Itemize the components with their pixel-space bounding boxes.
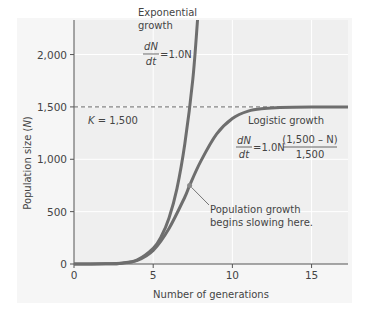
chart: 051015 05001,0001,5002,000 Number of gen… <box>0 0 365 322</box>
logistic-title: Logistic growth <box>248 115 324 126</box>
log-eq-rhs: =1.0N <box>253 142 285 153</box>
annotation-line2: begins slowing here. <box>210 217 313 228</box>
x-tick-label: 15 <box>305 269 318 281</box>
y-tick-label: 1,500 <box>37 101 67 113</box>
y-axis-label: Population size (N) <box>22 116 33 210</box>
annotation-line1: Population growth <box>210 204 301 215</box>
y-tick-label: 2,000 <box>37 49 67 61</box>
log-eq-ratio-denominator: 1,500 <box>296 149 325 160</box>
log-eq-denominator: dt <box>239 149 250 160</box>
x-axis-label: Number of generations <box>153 289 269 300</box>
log-eq-numerator: dN <box>237 135 251 146</box>
x-tick-label: 0 <box>71 269 78 281</box>
y-tick-label: 1,000 <box>37 153 67 165</box>
exp-eq-numerator: dN <box>144 41 158 52</box>
carrying-capacity-label: K = 1,500 <box>88 115 138 126</box>
exponential-title-line1: Exponential <box>138 7 197 18</box>
y-tick-label: 500 <box>47 206 67 218</box>
x-tick-label: 5 <box>150 269 157 281</box>
exponential-title-line2: growth <box>138 20 173 31</box>
y-axis-label-text: Population size ( <box>22 128 33 210</box>
exp-eq-denominator: dt <box>146 56 157 67</box>
exp-eq-rhs: =1.0N <box>160 49 192 60</box>
inflection-point-marker <box>187 183 192 188</box>
log-eq-ratio-numerator: (1,500 – N) <box>282 134 337 145</box>
y-tick-label: 0 <box>60 258 67 270</box>
x-tick-label: 10 <box>226 269 239 281</box>
